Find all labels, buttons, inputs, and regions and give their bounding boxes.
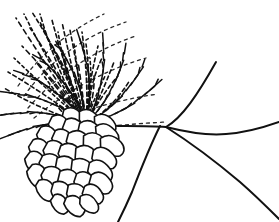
needle-stipple bbox=[102, 62, 103, 68]
needle-stipple bbox=[103, 33, 104, 46]
needle-stipple bbox=[123, 53, 124, 61]
needle-stipple bbox=[19, 95, 27, 96]
pine-cone-illustration bbox=[0, 0, 279, 222]
figure-container: Figure 1-5 bbox=[0, 0, 279, 222]
needle-stipple bbox=[96, 97, 97, 102]
